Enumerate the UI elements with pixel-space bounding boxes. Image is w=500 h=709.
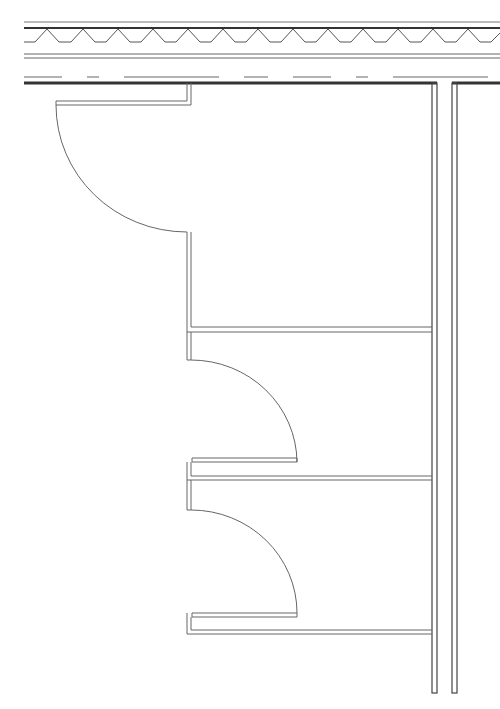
door-room-3 <box>187 480 432 634</box>
door-swing-arc <box>56 105 187 232</box>
door-swing-arc <box>191 510 297 613</box>
insulation-zigzag <box>24 29 500 42</box>
partition-1 <box>187 327 432 360</box>
door-swing-arc <box>191 360 297 462</box>
door-room-1 <box>56 83 191 327</box>
exterior-wall <box>24 22 500 83</box>
floor-plan <box>0 0 500 709</box>
corridor-wall <box>432 83 457 693</box>
door-room-2 <box>187 360 432 480</box>
